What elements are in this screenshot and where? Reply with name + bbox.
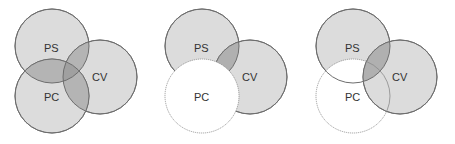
venn-diagrams: PS CV PC PS CV PC PS CV PC bbox=[0, 0, 455, 144]
label-pc: PC bbox=[194, 91, 209, 103]
label-ps: PS bbox=[44, 42, 59, 54]
label-cv: CV bbox=[242, 71, 258, 83]
venn-diagram-2: PS CV PC bbox=[165, 9, 287, 133]
label-cv: CV bbox=[392, 71, 408, 83]
label-pc: PC bbox=[44, 91, 59, 103]
venn-diagram-3: PS CV PC bbox=[316, 9, 437, 133]
label-cv: CV bbox=[92, 71, 108, 83]
label-pc: PC bbox=[345, 91, 360, 103]
label-ps: PS bbox=[194, 42, 209, 54]
label-ps: PS bbox=[345, 42, 360, 54]
venn-diagram-1: PS CV PC bbox=[15, 9, 137, 133]
